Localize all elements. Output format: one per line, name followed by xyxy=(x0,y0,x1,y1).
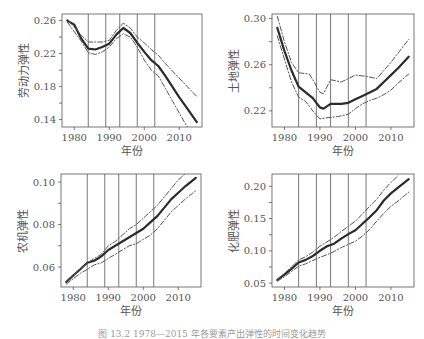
y-tick-label: 0.22 xyxy=(244,105,266,116)
y-tick-label: 0.22 xyxy=(34,48,56,59)
x-tick-label: 2000 xyxy=(343,292,368,303)
y-tick-label: 0.10 xyxy=(244,245,266,256)
confidence-band-line xyxy=(66,174,185,282)
estimate-line xyxy=(66,178,196,282)
panel-fertilizer-elasticity: 19801990200020100.050.100.150.20年份化肥弹性 xyxy=(227,174,414,318)
series-group xyxy=(67,19,197,130)
x-axis-label: 年份 xyxy=(332,304,354,318)
x-tick-label: 2010 xyxy=(378,292,403,303)
estimate-line xyxy=(67,21,197,123)
series-group xyxy=(66,174,196,284)
y-axis-label: 土地弹性 xyxy=(227,49,241,93)
y-axis-label: 劳动力弹性 xyxy=(17,43,31,98)
x-tick-label: 1980 xyxy=(272,132,297,143)
y-tick-label: 0.20 xyxy=(244,181,266,192)
estimate-line xyxy=(277,28,408,109)
confidence-band-line xyxy=(67,22,190,129)
panel-land-elasticity: 19801990200020100.220.260.30年份土地弹性 xyxy=(227,13,414,158)
x-tick-label: 1980 xyxy=(62,132,87,143)
y-tick-label: 0.15 xyxy=(244,213,266,224)
estimate-line xyxy=(277,179,408,280)
confidence-band-line xyxy=(277,176,398,279)
x-tick-label: 2000 xyxy=(343,132,368,143)
x-tick-label: 2010 xyxy=(166,292,191,303)
x-axis-label: 年份 xyxy=(120,304,142,318)
y-axis-label: 化肥弹性 xyxy=(227,209,241,253)
y-tick-label: 0.26 xyxy=(34,15,56,26)
x-tick-label: 1990 xyxy=(96,292,121,303)
figure-caption: 图 13.2 1978—2015 年各要素产出弹性的时间变化趋势 xyxy=(0,329,424,339)
panel-machinery-elasticity: 19801990200020100.060.080.10年份农机弹性 xyxy=(16,174,201,318)
y-tick-label: 0.05 xyxy=(244,278,266,289)
x-axis-label: 年份 xyxy=(121,144,143,158)
x-tick-label: 1990 xyxy=(97,132,122,143)
x-tick-label: 2000 xyxy=(131,292,156,303)
panel-labor-elasticity: 19801990200020100.140.180.220.26年份劳动力弹性 xyxy=(17,14,202,158)
x-tick-label: 2010 xyxy=(167,132,192,143)
y-tick-label: 0.18 xyxy=(34,81,56,92)
y-tick-label: 0.30 xyxy=(244,13,266,24)
x-tick-label: 1990 xyxy=(307,132,332,143)
x-tick-label: 1990 xyxy=(307,292,332,303)
y-tick-label: 0.14 xyxy=(34,114,56,125)
x-tick-label: 2010 xyxy=(378,132,403,143)
series-group xyxy=(277,176,408,281)
y-axis-label: 农机弹性 xyxy=(16,209,30,253)
y-tick-label: 0.10 xyxy=(33,177,55,188)
x-tick-label: 2000 xyxy=(132,132,157,143)
plot-frame xyxy=(272,14,414,127)
x-tick-label: 1980 xyxy=(272,292,297,303)
series-group xyxy=(277,16,408,119)
confidence-band-line xyxy=(67,19,197,97)
y-tick-label: 0.26 xyxy=(244,59,266,70)
y-tick-label: 0.06 xyxy=(33,262,55,273)
y-tick-label: 0.08 xyxy=(33,219,55,230)
x-tick-label: 1980 xyxy=(61,292,86,303)
x-axis-label: 年份 xyxy=(332,144,354,158)
